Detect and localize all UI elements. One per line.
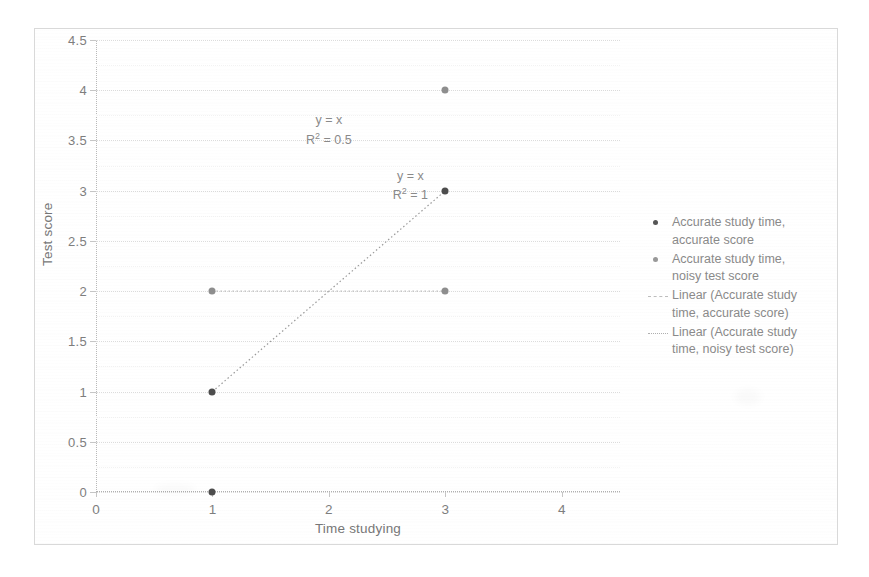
- annotation-r-squared: R2 = 1: [393, 185, 428, 204]
- x-tick-label: 1: [209, 502, 217, 517]
- data-point: [209, 288, 216, 295]
- y-tick-label: 2: [79, 284, 87, 299]
- legend-item[interactable]: Linear (Accurate study time, noisy test …: [648, 324, 826, 360]
- scan-artifact: [735, 389, 761, 405]
- plot-area: 00.511.522.533.544.5 01234 y = xR2 = 0.5…: [96, 40, 620, 492]
- legend-key-line: [648, 287, 672, 304]
- annotation-equation: y = x: [306, 112, 352, 130]
- legend-key-line: [648, 324, 672, 341]
- data-point: [442, 87, 449, 94]
- x-tick-label: 0: [92, 502, 100, 517]
- y-tick-label: 1: [79, 384, 87, 399]
- x-tick-label: 2: [325, 502, 333, 517]
- y-tick-label: 4: [79, 83, 87, 98]
- trendlines: [96, 40, 620, 492]
- legend-item-label: Accurate study time, noisy test score: [672, 251, 826, 287]
- legend-item-label: Linear (Accurate study time, noisy test …: [672, 324, 826, 360]
- legend-trendline-icon: [648, 296, 668, 297]
- data-point: [442, 187, 449, 194]
- legend-item[interactable]: Linear (Accurate study time, accurate sc…: [648, 287, 826, 323]
- x-axis-title: Time studying: [96, 521, 620, 536]
- legend: Accurate study time, accurate scoreAccur…: [648, 214, 826, 360]
- legend-item[interactable]: Accurate study time, accurate score: [648, 214, 826, 250]
- y-tick-label: 0: [79, 485, 87, 500]
- legend-marker-dot-icon: [653, 257, 658, 262]
- x-tick: [329, 492, 330, 497]
- legend-key-marker: [648, 251, 672, 268]
- noisy-fit-label: y = xR2 = 0.5: [306, 112, 352, 149]
- data-point: [209, 489, 216, 496]
- x-tick-label: 3: [442, 502, 450, 517]
- x-tick: [445, 492, 446, 497]
- y-tick-label: 2.5: [68, 233, 87, 248]
- y-tick-label: 0.5: [68, 434, 87, 449]
- x-tick: [96, 492, 97, 497]
- x-tick: [562, 492, 563, 497]
- y-axis-title: Test score: [40, 202, 55, 266]
- data-point: [442, 288, 449, 295]
- annotation-equation: y = x: [393, 167, 428, 185]
- legend-trendline-icon: [648, 333, 668, 334]
- y-tick-label: 1.5: [68, 334, 87, 349]
- y-tick-label: 3: [79, 183, 87, 198]
- accurate-fit-label: y = xR2 = 1: [393, 167, 428, 204]
- legend-item-label: Accurate study time, accurate score: [672, 214, 826, 250]
- x-tick-label: 4: [558, 502, 566, 517]
- legend-key-marker: [648, 214, 672, 231]
- legend-item[interactable]: Accurate study time, noisy test score: [648, 251, 826, 287]
- legend-item-label: Linear (Accurate study time, accurate sc…: [672, 287, 826, 323]
- legend-marker-dot-icon: [653, 220, 658, 225]
- data-point: [209, 388, 216, 395]
- y-tick-label: 4.5: [68, 33, 87, 48]
- y-tick-label: 3.5: [68, 133, 87, 148]
- annotation-r-squared: R2 = 0.5: [306, 130, 352, 149]
- gridline: [96, 492, 620, 493]
